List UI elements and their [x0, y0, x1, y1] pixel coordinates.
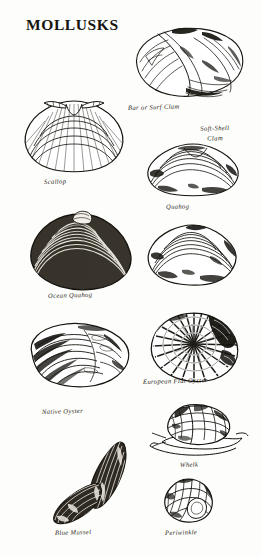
caption-blue-mussel: Blue Mussel	[55, 528, 91, 536]
blue-mussel-icon	[52, 438, 130, 530]
native-oyster-icon	[18, 316, 134, 394]
european-flat-oyster-icon	[148, 310, 240, 384]
caption-whelk: Whelk	[180, 460, 198, 468]
caption-ocean-quahog: Ocean Quahog	[48, 291, 92, 299]
caption-quahog: Quahog	[166, 202, 190, 210]
specimen-whelk	[148, 400, 248, 460]
scallop-icon	[22, 96, 126, 174]
whelk-icon	[148, 400, 248, 460]
specimen-ocean-quahog	[28, 208, 134, 292]
ocean-quahog-icon	[28, 208, 134, 292]
page-title: MOLLUSKS	[26, 16, 119, 34]
specimen-blue-mussel	[52, 438, 130, 530]
caption-soft-shell-clam: Soft-Shell Clam	[192, 123, 239, 144]
specimen-scallop	[22, 96, 126, 174]
specimen-periwinkle	[162, 476, 216, 526]
quahog-icon	[146, 222, 240, 288]
caption-native-oyster: Native Oyster	[42, 407, 83, 415]
caption-soft-shell-clam-line2: Clam	[192, 133, 238, 144]
specimen-soft-shell-clam	[144, 142, 242, 198]
mollusks-illustration-plate: MOLLUSKS	[0, 0, 262, 557]
specimen-native-oyster	[18, 316, 134, 394]
caption-periwinkle: Periwinkle	[165, 528, 197, 536]
specimen-european-flat-oyster	[148, 310, 240, 384]
caption-bar-or-surf-clam: Bar or Surf Clam	[128, 103, 180, 111]
specimen-quahog	[146, 222, 240, 288]
periwinkle-icon	[162, 476, 216, 526]
specimen-bar-or-surf-clam	[128, 18, 250, 104]
caption-scallop: Scallop	[44, 177, 66, 185]
soft-shell-clam-icon	[144, 142, 242, 198]
bar-or-surf-clam-icon	[128, 18, 250, 104]
